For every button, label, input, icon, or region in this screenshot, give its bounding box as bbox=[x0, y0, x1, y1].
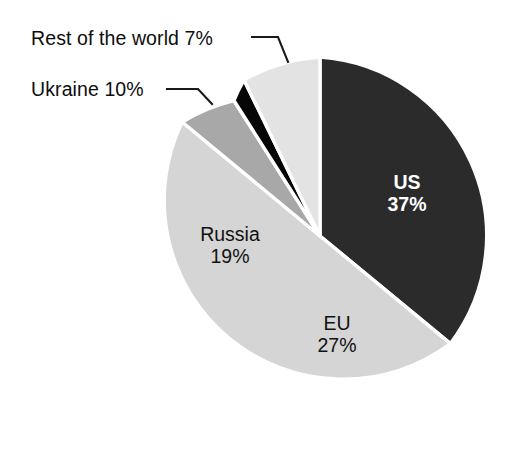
pie-slices bbox=[164, 57, 486, 379]
pie-callout-label-ukraine: Ukraine 10% bbox=[31, 78, 144, 101]
pie-chart-figure: US 37% EU 27% Russia 19% Rest of the wor… bbox=[0, 0, 531, 452]
leader-line-rest-of-the-world bbox=[252, 37, 288, 62]
pie-callout-label-rest-of-the-world: Rest of the world 7% bbox=[31, 27, 213, 50]
pie-chart-canvas bbox=[0, 0, 531, 452]
leader-line-ukraine bbox=[167, 89, 212, 104]
